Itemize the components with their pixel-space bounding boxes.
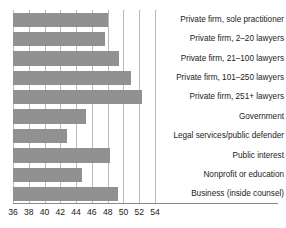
bar — [13, 71, 131, 85]
category-label: Private firm, sole practitioner — [160, 15, 284, 24]
category-label: Legal services/public defender — [160, 131, 284, 140]
bar-row — [13, 126, 155, 145]
gridline — [155, 10, 156, 204]
plot-area — [13, 10, 155, 204]
category-label: Public interest — [160, 151, 284, 160]
bar-row — [13, 107, 155, 126]
bar — [13, 51, 119, 65]
bar-row — [13, 49, 155, 68]
category-label: Private firm, 101–250 lawyers — [160, 73, 284, 82]
bar-row — [13, 88, 155, 107]
bar — [13, 168, 82, 182]
x-tick-label: 50 — [119, 207, 129, 217]
category-label: Business (inside counsel) — [160, 189, 284, 198]
bar-row — [13, 68, 155, 87]
bar-chart: 36384042444648505254 Private firm, sole … — [0, 0, 286, 228]
x-tick-label: 46 — [87, 207, 97, 217]
x-tick-label: 38 — [24, 207, 34, 217]
category-label: Nonprofit or education — [160, 170, 284, 179]
category-label: Private firm, 21–100 lawyers — [160, 54, 284, 63]
x-tick-label: 44 — [71, 207, 81, 217]
bar-row — [13, 185, 155, 204]
bar — [13, 187, 118, 201]
bar — [13, 109, 86, 123]
bar — [13, 129, 67, 143]
bar-series — [13, 10, 155, 204]
x-axis-line — [13, 203, 278, 204]
x-tick-label: 42 — [56, 207, 66, 217]
bar-row — [13, 10, 155, 29]
category-label: Government — [160, 112, 284, 121]
bar — [13, 90, 142, 104]
x-tick-label: 36 — [8, 207, 18, 217]
x-axis-tick-labels: 36384042444648505254 — [0, 207, 286, 223]
x-tick-label: 52 — [134, 207, 144, 217]
bar-row — [13, 165, 155, 184]
category-label: Private firm, 251+ lawyers — [160, 92, 284, 101]
x-tick-label: 54 — [150, 207, 160, 217]
category-label: Private firm, 2–20 lawyers — [160, 34, 284, 43]
x-tick-label: 48 — [103, 207, 113, 217]
bar-row — [13, 29, 155, 48]
bar — [13, 32, 105, 46]
bar — [13, 13, 108, 27]
x-tick-label: 40 — [40, 207, 50, 217]
bar — [13, 148, 110, 162]
bar-row — [13, 146, 155, 165]
